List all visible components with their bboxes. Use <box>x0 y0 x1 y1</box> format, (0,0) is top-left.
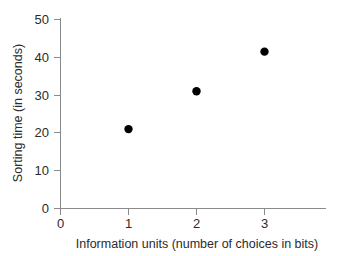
y-axis-tick-labels: 0 10 20 30 40 50 <box>35 12 49 216</box>
data-point <box>192 87 200 95</box>
chart-canvas: 0 10 20 30 40 50 0 1 2 3 Information uni… <box>0 0 340 256</box>
scatter-chart-figure: 0 10 20 30 40 50 0 1 2 3 Information uni… <box>0 0 340 256</box>
y-tick-label-40: 40 <box>35 50 49 65</box>
y-tick-label-50: 50 <box>35 12 49 27</box>
y-tick-label-10: 10 <box>35 163 49 178</box>
x-tick-label-3: 3 <box>261 216 268 231</box>
x-tick-label-2: 2 <box>193 216 200 231</box>
x-tick-label-1: 1 <box>125 216 132 231</box>
y-tick-label-30: 30 <box>35 88 49 103</box>
x-axis-tick-labels: 0 1 2 3 <box>57 216 268 231</box>
y-axis-title: Sorting time (in seconds) <box>11 44 25 182</box>
x-axis-ticks <box>61 209 265 216</box>
data-point <box>124 125 132 133</box>
y-axis-ticks <box>54 20 61 209</box>
y-tick-label-20: 20 <box>35 125 49 140</box>
x-tick-label-0: 0 <box>57 216 64 231</box>
data-series-layer <box>124 47 268 133</box>
axes-group <box>61 18 327 209</box>
data-point <box>260 47 268 55</box>
x-axis-title: Information units (number of choices in … <box>76 237 318 251</box>
y-tick-label-0: 0 <box>42 201 49 216</box>
